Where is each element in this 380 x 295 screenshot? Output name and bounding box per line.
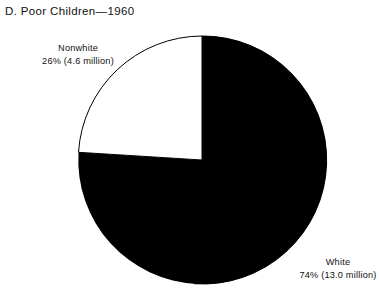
pie-label-white: White 74% (13.0 million) [296, 256, 380, 281]
pie-label-white-name: White [296, 256, 380, 269]
pie-label-white-value: 74% (13.0 million) [296, 269, 380, 282]
pie-label-nonwhite-name: Nonwhite [22, 42, 134, 55]
chart-figure: D. Poor Children—1960 Nonwhite 26% (4.6 … [0, 0, 380, 295]
pie-label-nonwhite-value: 26% (4.6 million) [22, 55, 134, 68]
pie-label-nonwhite: Nonwhite 26% (4.6 million) [22, 42, 134, 67]
